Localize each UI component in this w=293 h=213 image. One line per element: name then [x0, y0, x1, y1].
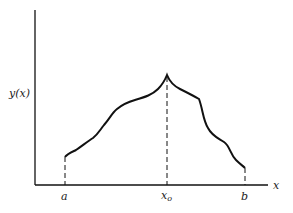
tick-label-a: a [61, 190, 68, 203]
tick-label-b: b [241, 190, 248, 203]
graph: y(x) x a xo b [0, 0, 293, 213]
x-axis-label: x [273, 179, 280, 192]
tick-label-x0: xo [161, 189, 172, 203]
y-axis-label: y(x) [8, 87, 30, 100]
curve-y-of-x [65, 75, 245, 168]
